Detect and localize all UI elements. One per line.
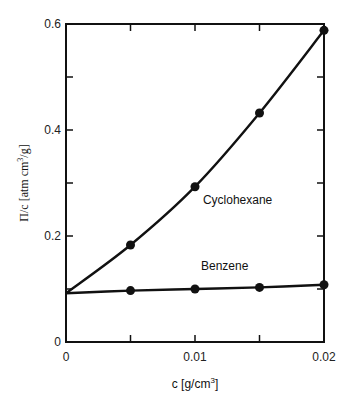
x-tick-label: 0.01 — [183, 350, 207, 364]
cyclohexane-data-point — [191, 182, 200, 191]
cyclohexane-data-point — [126, 241, 135, 250]
data-markers — [126, 26, 329, 295]
y-tick-label: 0.4 — [44, 123, 61, 137]
y-axis-label: Π/c [atm cm3/g] — [16, 144, 31, 221]
benzene-data-point — [320, 280, 329, 289]
y-tick-label: 0.6 — [44, 17, 61, 31]
series-labels: CyclohexaneBenzene — [201, 193, 273, 273]
data-curves — [66, 30, 324, 293]
benzene-data-point — [191, 285, 200, 294]
y-tick-label: 0 — [54, 335, 61, 349]
benzene-data-point — [126, 286, 135, 295]
cyclohexane-data-point — [320, 26, 329, 35]
cyclohexane-label: Cyclohexane — [203, 193, 273, 207]
x-tick-label: 0 — [63, 350, 70, 364]
cyclohexane-data-point — [255, 109, 264, 118]
benzene-data-point — [255, 283, 264, 292]
x-axis-label: c [g/cm3] — [172, 376, 218, 391]
osmotic-pressure-chart: 00.010.0200.20.40.6 CyclohexaneBenzene c… — [0, 0, 348, 412]
benzene-label: Benzene — [201, 259, 249, 273]
y-tick-label: 0.2 — [44, 229, 61, 243]
x-tick-label: 0.02 — [312, 350, 336, 364]
cyclohexane-curve — [66, 30, 324, 293]
